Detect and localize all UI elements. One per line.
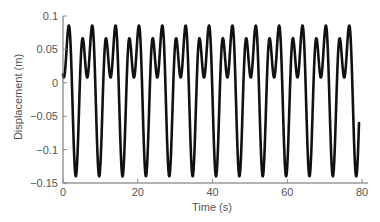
x-axis: 020406080	[60, 179, 368, 198]
y-tick-label: 0	[52, 77, 58, 89]
chart: −0.15−0.1−0.0500.050.1 020406080 Time (s…	[0, 0, 380, 222]
x-axis-label: Time (s)	[192, 201, 232, 213]
y-axis-label: Displacement (m)	[12, 54, 24, 140]
x-tick-label: 80	[356, 186, 368, 198]
y-tick-label: −0.15	[30, 177, 58, 189]
y-tick-label: −0.05	[30, 110, 58, 122]
x-tick-label: 20	[132, 186, 144, 198]
x-ticks: 020406080	[60, 179, 368, 198]
x-tick-label: 60	[281, 186, 293, 198]
displacement-line	[63, 26, 359, 177]
plot-curve-group	[63, 26, 359, 177]
x-tick-label: 0	[60, 186, 66, 198]
x-tick-label: 40	[206, 186, 218, 198]
y-tick-label: −0.1	[36, 144, 58, 156]
y-tick-label: 0.1	[43, 10, 58, 22]
y-axis: −0.15−0.1−0.0500.050.1	[30, 10, 67, 189]
y-ticks: −0.15−0.1−0.0500.050.1	[30, 10, 67, 189]
y-tick-label: 0.05	[37, 43, 58, 55]
